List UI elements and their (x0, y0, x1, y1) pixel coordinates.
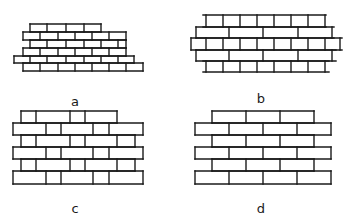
panel-d-label: d (257, 202, 265, 215)
panel-b-label: b (257, 92, 265, 105)
panel-c-bricks (13, 111, 143, 184)
panel-b-bricks (191, 15, 342, 72)
panel-a-label: a (71, 95, 79, 108)
panel-c-label: c (71, 202, 78, 215)
panel-a-bricks (14, 24, 143, 71)
brick-bond-diagram (0, 0, 348, 217)
panel-d-bricks (195, 111, 331, 184)
